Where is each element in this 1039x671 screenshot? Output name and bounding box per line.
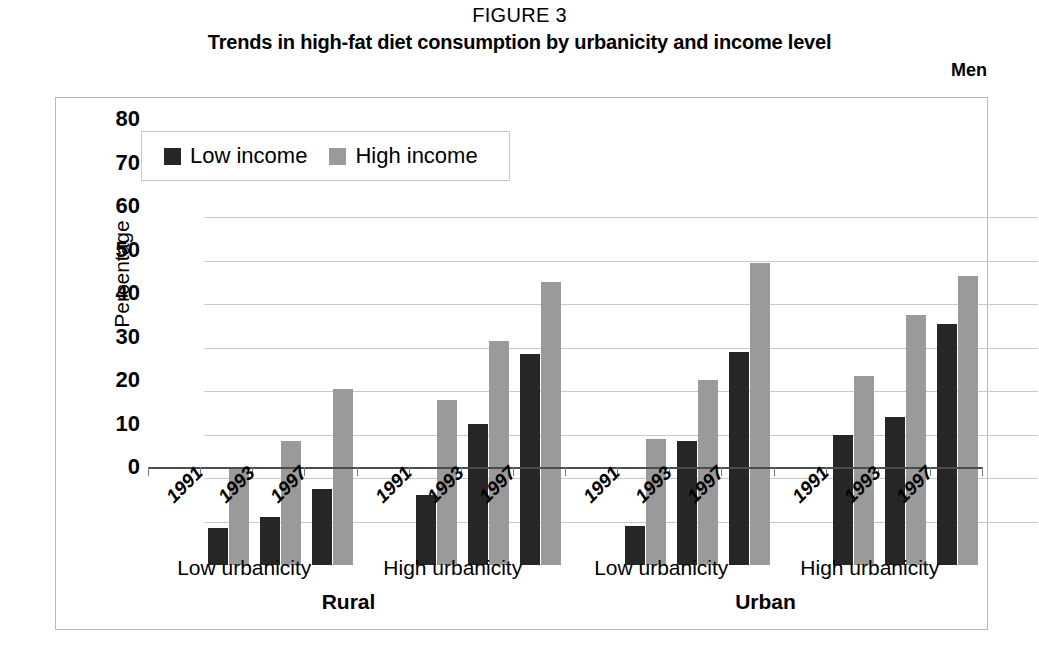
legend-item-low-income[interactable]: Low income — [164, 145, 307, 167]
x-axis-tick — [982, 467, 983, 476]
x-axis-tick — [357, 467, 358, 476]
legend-item-high-income[interactable]: High income — [329, 145, 477, 167]
legend-swatch-icon-low-income — [164, 148, 181, 165]
legend-swatch-icon-high-income — [329, 148, 346, 165]
urbanicity-labels: Low urbanicityHigh urbanicityLow urbanic… — [0, 556, 1039, 586]
legend-label-high-income: High income — [355, 145, 477, 167]
chart-legend[interactable]: Low income High income — [141, 131, 510, 181]
legend-label-low-income: Low income — [190, 145, 307, 167]
x-axis-tick — [774, 467, 775, 476]
urbanicity-label: Low urbanicity — [177, 556, 311, 580]
x-axis-tick — [148, 467, 149, 476]
urbanicity-label: High urbanicity — [800, 556, 939, 580]
urbanicity-label: High urbanicity — [383, 556, 522, 580]
x-axis-tick — [565, 467, 566, 476]
region-label: Urban — [735, 590, 796, 614]
urbanicity-label: Low urbanicity — [594, 556, 728, 580]
region-label: Rural — [322, 590, 376, 614]
year-tick-labels: 1991199319971991199319971991199319971991… — [0, 492, 1039, 562]
region-labels: RuralUrban — [0, 590, 1039, 620]
